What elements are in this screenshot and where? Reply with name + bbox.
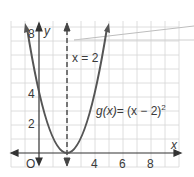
callout-line — [74, 26, 194, 40]
function-exponent: 2 — [161, 103, 166, 112]
function-name: g(x) — [96, 104, 117, 118]
y-tick-2: 2 — [28, 117, 35, 131]
x-axis — [11, 150, 181, 156]
y-tick-8: 8 — [28, 27, 35, 41]
y-axis-label: y — [43, 24, 51, 38]
function-expr: = (x − 2) — [117, 104, 162, 118]
graph-figure: 8 4 2 4 6 8 O y x x = 2 g(x)= (x − 2)2 — [0, 0, 194, 177]
y-tick-4: 4 — [28, 87, 35, 101]
x-axis-label: x — [170, 138, 178, 152]
x-tick-4: 4 — [91, 157, 98, 171]
origin-label: O — [26, 157, 35, 171]
x-tick-8: 8 — [147, 157, 154, 171]
x-tick-6: 6 — [119, 157, 126, 171]
function-label: g(x)= (x − 2)2 — [96, 103, 166, 118]
axis-of-symmetry-label: x = 2 — [72, 51, 99, 65]
